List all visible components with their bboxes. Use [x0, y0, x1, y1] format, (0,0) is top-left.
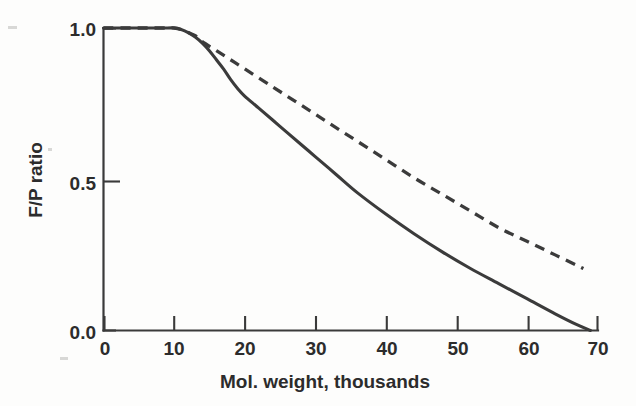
x-tick-label-20: 20: [234, 338, 255, 359]
y-tick-label-0.5: 0.5: [70, 173, 97, 194]
scan-artifact: [48, 148, 52, 151]
y-tick-label-0.0: 0.0: [70, 322, 96, 343]
y-tick-label-1.0: 1.0: [70, 19, 96, 40]
fp-ratio-vs-molecular-weight-chart: 1.0 0.5 0.0 0 10 20 30 40 50 60 70 F/P r…: [0, 0, 636, 406]
x-tick-label-60: 60: [518, 338, 539, 359]
figure-container: 1.0 0.5 0.0 0 10 20 30 40 50 60 70 F/P r…: [0, 0, 636, 406]
x-tick-label-40: 40: [376, 338, 397, 359]
x-tick-label-30: 30: [305, 338, 326, 359]
data-series-dashed-curve: [104, 28, 584, 269]
x-tick-label-50: 50: [447, 338, 468, 359]
scan-artifact: [8, 26, 17, 29]
scan-artifact: [60, 357, 68, 360]
x-axis-title: Mol. weight, thousands: [220, 371, 430, 392]
data-series-solid-curve: [104, 28, 591, 331]
y-axis-title: F/P ratio: [25, 142, 46, 218]
x-tick-label-70: 70: [587, 338, 608, 359]
x-tick-label-0: 0: [100, 338, 111, 359]
x-tick-label-10: 10: [163, 338, 184, 359]
